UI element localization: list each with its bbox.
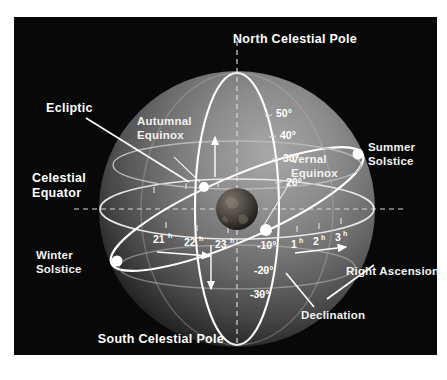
ra-tick-22: 22 xyxy=(184,236,196,248)
autumnal-equinox-label-line2: Equinox xyxy=(137,129,184,141)
ra-tick-3: 3 xyxy=(335,231,341,243)
ra-tick-21-unit: h xyxy=(168,232,172,239)
ra-tick-1-unit: h xyxy=(299,237,303,244)
south-celestial-pole-label: South Celestial Pole xyxy=(98,332,224,346)
celestial-sphere-diagram: North Celestial Pole South Celestial Pol… xyxy=(14,17,437,355)
winter-solstice-point[interactable] xyxy=(112,256,123,267)
ra-tick-2: 2 xyxy=(313,235,319,247)
autumnal-equinox-point[interactable] xyxy=(199,182,209,192)
declination-tick-minus30: -30° xyxy=(250,288,269,300)
ra-tick-1: 1 xyxy=(291,238,297,250)
declination-tick-minus20: -20° xyxy=(254,264,273,276)
declination-tick-20: 20° xyxy=(286,176,302,188)
summer-solstice-label-line2: Solstice xyxy=(368,155,414,167)
ra-tick-23-unit: h xyxy=(230,237,234,244)
figure-page: North Celestial Pole South Celestial Pol… xyxy=(0,0,447,380)
vernal-equinox-point[interactable] xyxy=(260,224,272,236)
declination-tick-minus10: -10° xyxy=(257,239,276,251)
celestial-equator-label-line1: Celestial xyxy=(32,171,86,185)
north-celestial-pole-label: North Celestial Pole xyxy=(233,32,357,46)
ecliptic-label: Ecliptic xyxy=(46,101,93,115)
earth-globe xyxy=(216,188,258,230)
winter-solstice-label-line1: Winter xyxy=(36,249,73,261)
autumnal-equinox-label-line1: Autumnal xyxy=(137,115,192,127)
winter-solstice-label-line2: Solstice xyxy=(36,263,82,275)
ra-tick-2-unit: h xyxy=(321,234,325,241)
summer-solstice-label-line1: Summer xyxy=(368,141,416,153)
declination-tick-30: 30° xyxy=(283,152,299,164)
summer-solstice-point[interactable] xyxy=(353,149,364,160)
ra-tick-3-unit: h xyxy=(343,230,347,237)
diagram-panel: North Celestial Pole South Celestial Pol… xyxy=(14,17,437,355)
ra-tick-22-unit: h xyxy=(199,235,203,242)
ra-tick-23: 23 xyxy=(215,238,227,250)
declination-tick-50: 50° xyxy=(276,107,292,119)
right-ascension-label: Right Ascension xyxy=(346,265,437,277)
celestial-equator-label-line2: Equator xyxy=(32,186,81,200)
ra-tick-21: 21 xyxy=(153,233,165,245)
declination-label: Declination xyxy=(301,309,365,321)
declination-tick-40: 40° xyxy=(280,129,296,141)
